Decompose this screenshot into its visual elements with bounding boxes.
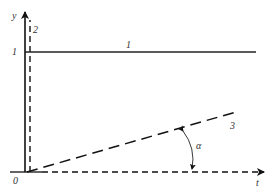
origin-label: 0 [13,175,18,186]
diagram-canvas: y 2 1 1 3 α 0 t [0,0,277,195]
line-3-ramp [27,112,236,172]
line-2-label: 2 [33,24,38,35]
diagram-svg: y 2 1 1 3 α 0 t [0,0,277,195]
t-axis-label: t [256,177,259,188]
angle-alpha-arc [183,131,193,169]
y-axis-label: y [11,10,17,21]
line-3-label: 3 [229,120,235,131]
line-1-label: 1 [126,39,131,50]
y-tick-label-1: 1 [12,46,17,57]
angle-alpha-label: α [196,140,202,151]
